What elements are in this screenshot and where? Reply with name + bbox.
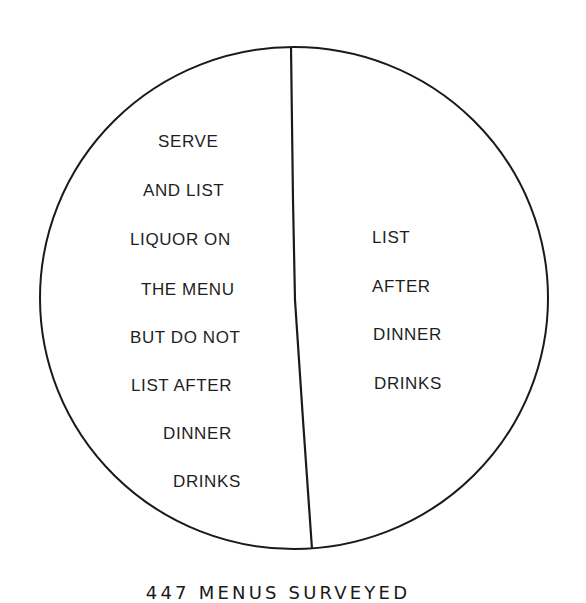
left-label-line: DRINKS [173,473,241,490]
left-label-line: DINNER [163,425,232,442]
left-label-line: LIST AFTER [131,377,232,394]
right-label-line: DINNER [373,326,442,343]
chart-caption: 447 MENUS SURVEYED [0,584,556,602]
right-label-line: LIST [372,229,410,246]
left-label-line: SERVE [158,133,218,150]
left-label-line: BUT DO NOT [130,329,241,346]
pie-chart [0,0,586,603]
right-label-line: DRINKS [374,375,442,392]
right-label-line: AFTER [372,278,431,295]
left-label-line: LIQUOR ON [130,231,231,248]
left-label-line: AND LIST [143,182,224,199]
left-label-line: THE MENU [141,281,235,298]
